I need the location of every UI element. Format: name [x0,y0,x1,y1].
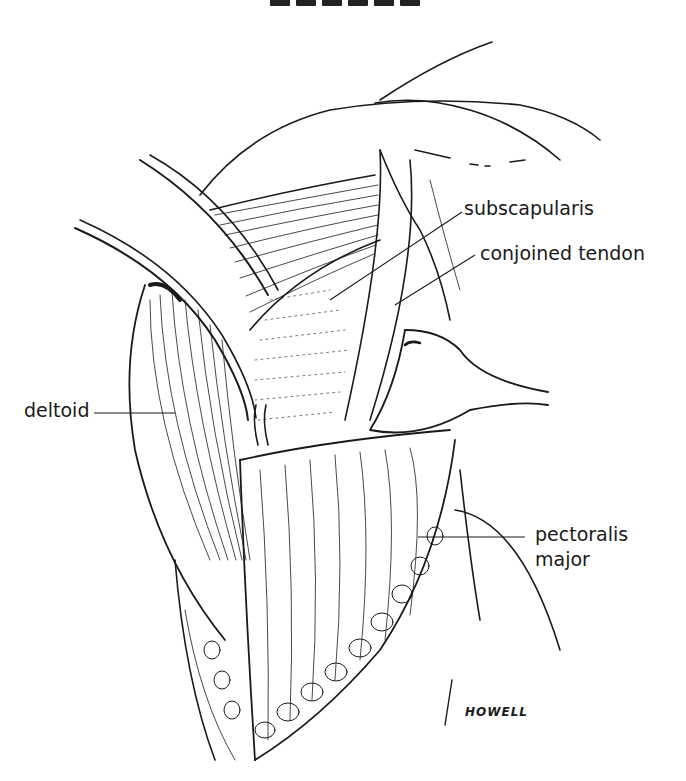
label-pectoralis-line1: pectoralis [535,524,628,546]
surgical-illustration [0,0,686,781]
label-conjoined-tendon: conjoined tendon [480,243,645,265]
label-pectoralis-line2: major [535,549,590,571]
label-subscapularis: subscapularis [464,198,594,220]
label-deltoid: deltoid [24,400,89,422]
artist-signature: HOWELL [465,705,528,719]
